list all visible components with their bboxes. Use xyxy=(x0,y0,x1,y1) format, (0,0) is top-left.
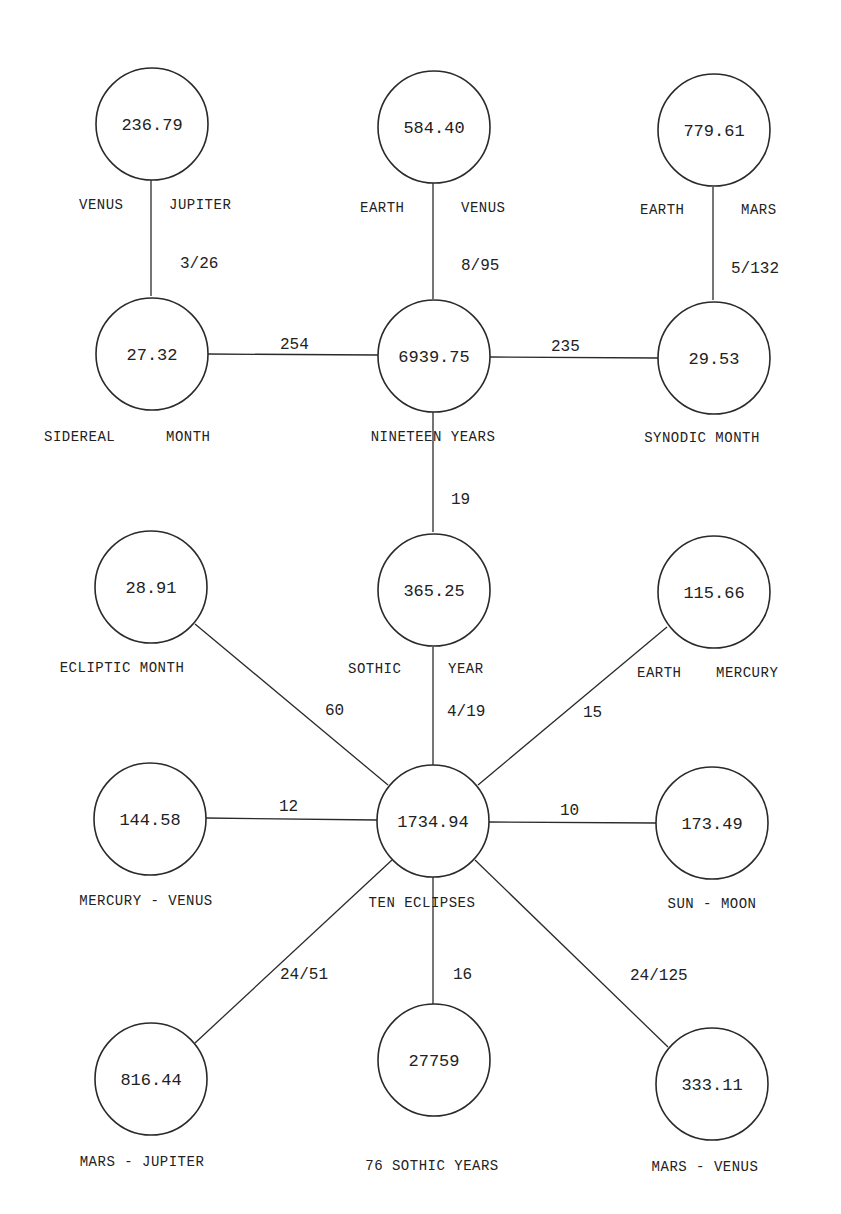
node-label: YEAR xyxy=(448,661,484,677)
node-value: 365.25 xyxy=(403,582,464,601)
node-mars-jupiter: 816.44 MARS - JUPITER xyxy=(80,1023,207,1170)
node-value: 115.66 xyxy=(683,584,744,603)
node-value: 779.61 xyxy=(683,122,744,141)
edge-mercuryvenus-teneclipses xyxy=(206,818,377,820)
edge-label: 10 xyxy=(560,802,579,820)
node-label: VENUS xyxy=(79,197,124,213)
edge-label: 15 xyxy=(583,704,602,722)
node-venus-jupiter: 236.79 VENUS JUPITER xyxy=(79,68,231,213)
node-label: EARTH xyxy=(640,202,685,218)
node-label: 76 SOTHIC YEARS xyxy=(365,1158,499,1174)
node-label: EARTH xyxy=(637,665,682,681)
edge-label: 24/51 xyxy=(280,966,328,984)
nodes: 236.79 VENUS JUPITER 584.40 EARTH VENUS … xyxy=(44,68,778,1175)
node-label: ECLIPTIC MONTH xyxy=(60,660,185,676)
edge-label: 4/19 xyxy=(447,703,485,721)
node-label: MARS - JUPITER xyxy=(80,1154,205,1170)
edge-ecliptic-teneclipses xyxy=(195,624,388,785)
edge-label: 60 xyxy=(325,702,344,720)
node-label: MERCURY xyxy=(716,665,778,681)
node-value: 1734.94 xyxy=(397,813,468,832)
node-label: SOTHIC xyxy=(348,661,401,677)
node-label: SIDEREAL xyxy=(44,429,115,445)
node-label: SYNODIC MONTH xyxy=(644,430,760,446)
node-value: 28.91 xyxy=(125,579,176,598)
edge-teneclipses-sunmoon xyxy=(489,822,656,823)
node-earth-mercury: 115.66 EARTH MERCURY xyxy=(637,536,778,681)
node-value: 6939.75 xyxy=(398,348,469,367)
edge-earthmercury-teneclipses xyxy=(478,627,667,785)
node-ecliptic-month: 28.91 ECLIPTIC MONTH xyxy=(60,531,207,676)
node-mercury-venus: 144.58 MERCURY - VENUS xyxy=(79,763,213,909)
node-earth-mars: 779.61 EARTH MARS xyxy=(640,74,777,218)
node-synodic-month: 29.53 SYNODIC MONTH xyxy=(644,302,770,446)
node-label: MARS - VENUS xyxy=(652,1159,759,1175)
node-label: MARS xyxy=(741,202,777,218)
edge-nineteen-synodic xyxy=(490,357,658,358)
edge-label: 8/95 xyxy=(461,257,499,275)
node-76-sothic-years: 27759 76 SOTHIC YEARS xyxy=(365,1004,499,1174)
node-label: NINETEEN YEARS xyxy=(371,429,496,445)
node-value: 816.44 xyxy=(120,1071,181,1090)
node-value: 584.40 xyxy=(403,119,464,138)
node-value: 173.49 xyxy=(681,815,742,834)
node-value: 144.58 xyxy=(119,811,180,830)
edge-sidereal-nineteen xyxy=(207,354,378,355)
edge-teneclipses-marsvenus xyxy=(475,860,668,1047)
node-sun-moon: 173.49 SUN - MOON xyxy=(656,767,768,912)
node-label: EARTH xyxy=(360,200,405,216)
node-ten-eclipses: 1734.94 TEN ECLIPSES xyxy=(369,765,489,911)
edge-label: 24/125 xyxy=(630,967,688,985)
edge-label: 5/132 xyxy=(731,260,779,278)
node-label: MERCURY - VENUS xyxy=(79,893,213,909)
node-label: VENUS xyxy=(461,200,506,216)
node-value: 333.11 xyxy=(681,1076,742,1095)
node-label: TEN ECLIPSES xyxy=(369,895,476,911)
edge-label: 254 xyxy=(280,336,309,354)
node-label: SUN - MOON xyxy=(667,896,756,912)
node-sidereal-month: 27.32 SIDEREAL MONTH xyxy=(44,298,211,445)
node-label: MONTH xyxy=(166,429,211,445)
node-sothic-year: 365.25 SOTHIC YEAR xyxy=(348,534,490,677)
node-label: JUPITER xyxy=(169,197,231,213)
edge-teneclipses-marsjupiter xyxy=(195,860,392,1043)
edge-label: 12 xyxy=(279,798,298,816)
node-value: 236.79 xyxy=(121,116,182,135)
node-value: 27759 xyxy=(408,1052,459,1071)
node-value: 27.32 xyxy=(126,346,177,365)
node-mars-venus: 333.11 MARS - VENUS xyxy=(652,1028,768,1175)
edge-label: 3/26 xyxy=(180,255,218,273)
cycle-relationship-diagram: 3/26 8/95 5/132 254 235 19 4/19 60 15 12… xyxy=(0,0,841,1214)
edge-label: 235 xyxy=(551,338,580,356)
edge-label: 19 xyxy=(451,491,470,509)
edge-label: 16 xyxy=(453,966,472,984)
node-value: 29.53 xyxy=(688,350,739,369)
